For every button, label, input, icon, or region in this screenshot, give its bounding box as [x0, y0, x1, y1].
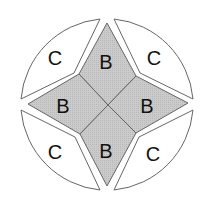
label-c-bottom-left: C — [48, 141, 62, 163]
label-c-top-left: C — [48, 47, 62, 69]
label-b-right: B — [140, 95, 153, 117]
star-circle-diagram: B B B B C C C C — [0, 0, 209, 206]
label-c-top-right: C — [147, 47, 161, 69]
label-c-bottom-right: C — [146, 143, 160, 165]
label-b-left: B — [56, 95, 69, 117]
label-b-top: B — [99, 51, 112, 73]
label-b-bottom: B — [99, 140, 112, 162]
